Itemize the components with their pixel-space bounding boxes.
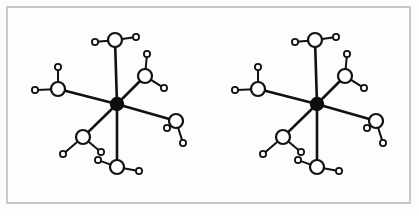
- metal-oxygen-bond: [315, 44, 317, 101]
- oxygen-atom: [308, 33, 322, 47]
- hydrogen-atom: [344, 51, 350, 57]
- hydrogen-atom: [336, 168, 342, 174]
- oxygen-atom: [338, 69, 352, 83]
- hydrogen-atom: [95, 157, 101, 163]
- hydrogen-atom: [180, 140, 186, 146]
- hydrogen-atom: [255, 64, 261, 70]
- oxygen-atom: [51, 82, 65, 96]
- hydrogen-atom: [298, 149, 304, 155]
- hydrogen-atom: [364, 125, 370, 131]
- hydrogen-atom: [260, 151, 266, 157]
- oxygen-atom: [276, 130, 290, 144]
- hydrogen-atom: [98, 149, 104, 155]
- figure-background: [0, 0, 419, 216]
- oxygen-atom: [310, 160, 324, 174]
- hydrogen-atom: [295, 157, 301, 163]
- hydrogen-atom: [161, 85, 167, 91]
- hydrogen-atom: [292, 39, 298, 45]
- oxygen-atom: [169, 114, 183, 128]
- metal-center-atom: [110, 97, 124, 111]
- hydrogen-atom: [164, 125, 170, 131]
- hydrogen-atom: [32, 87, 38, 93]
- hydrogen-atom: [333, 34, 339, 40]
- molecular-structure-figure: Two identical octahedral hexaaqua comple…: [0, 0, 419, 216]
- hydrogen-atom: [144, 51, 150, 57]
- oxygen-atom: [110, 160, 124, 174]
- hydrogen-atom: [92, 39, 98, 45]
- hydrogen-atom: [133, 34, 139, 40]
- hydrogen-atom: [380, 140, 386, 146]
- metal-center-atom: [310, 97, 324, 111]
- metal-oxygen-bond: [115, 44, 117, 101]
- hydrogen-atom: [60, 151, 66, 157]
- oxygen-atom: [369, 114, 383, 128]
- oxygen-atom: [251, 82, 265, 96]
- hydrogen-atom: [136, 168, 142, 174]
- structure-canvas: [0, 0, 419, 216]
- oxygen-atom: [138, 69, 152, 83]
- oxygen-atom: [108, 33, 122, 47]
- hydrogen-atom: [361, 85, 367, 91]
- oxygen-atom: [76, 130, 90, 144]
- hydrogen-atom: [232, 87, 238, 93]
- hydrogen-atom: [55, 64, 61, 70]
